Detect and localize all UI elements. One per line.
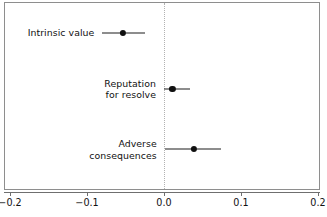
row-label-line: Intrinsic value xyxy=(28,27,95,39)
x-axis-tick xyxy=(164,192,165,196)
row-label: Adverseconsequences xyxy=(89,138,157,161)
row-label: Reputationfor resolve xyxy=(104,77,156,100)
x-axis-tick xyxy=(10,192,11,196)
confidence-interval-bar xyxy=(164,88,190,89)
x-axis-tick-label: −0.1 xyxy=(75,197,98,208)
row-label-line: Adverse xyxy=(89,138,157,150)
x-axis-tick-label: −0.2 xyxy=(0,197,22,208)
x-axis-tick xyxy=(241,192,242,196)
zero-reference-line xyxy=(164,3,165,189)
x-axis-tick xyxy=(318,192,319,196)
x-axis-tick-label: 0.2 xyxy=(310,197,325,208)
row-label-line: Reputation xyxy=(104,77,156,89)
figure-caption xyxy=(0,209,327,217)
x-axis-tick-label: 0.1 xyxy=(233,197,248,208)
x-axis-tick xyxy=(87,192,88,196)
row-label-line: for resolve xyxy=(104,89,156,101)
row-label: Intrinsic value xyxy=(28,27,95,39)
row-label-line: consequences xyxy=(89,149,157,161)
coefficient-plot-figure: Intrinsic valueReputationfor resolveAdve… xyxy=(0,0,327,217)
x-axis-line xyxy=(4,192,320,193)
x-axis-tick-label: 0.0 xyxy=(156,197,171,208)
